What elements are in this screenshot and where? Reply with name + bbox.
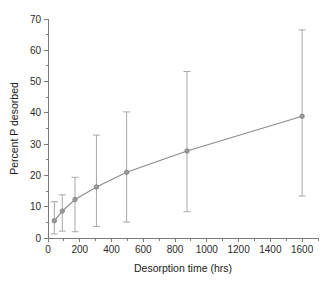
x-tick-label: 1600 [291, 244, 314, 255]
x-tick-label: 200 [71, 244, 88, 255]
y-axis-title: Percent P desorbed [8, 82, 20, 175]
tick-labels: 0200400600800100012001400160001020304050… [30, 14, 314, 256]
y-tick-label: 60 [30, 45, 42, 56]
error-bars [51, 30, 306, 234]
axes [44, 19, 318, 242]
x-tick-label: 400 [103, 244, 120, 255]
y-tick-label: 20 [30, 170, 42, 181]
data-point-marker [300, 114, 304, 118]
x-tick-label: 0 [45, 244, 51, 255]
x-tick-label: 600 [135, 244, 152, 255]
y-tick-label: 10 [30, 201, 42, 212]
x-tick-label: 1400 [259, 244, 282, 255]
chart-container: 0200400600800100012001400160001020304050… [0, 0, 329, 284]
line-chart: 0200400600800100012001400160001020304050… [0, 0, 329, 284]
data-markers [52, 114, 304, 223]
x-axis-title: Desorption time (hrs) [134, 262, 232, 274]
data-point-marker [124, 170, 128, 174]
data-point-marker [73, 197, 77, 201]
series-polyline [54, 116, 302, 220]
data-point-marker [185, 149, 189, 153]
x-tick-label: 1000 [196, 244, 219, 255]
data-point-marker [94, 185, 98, 189]
data-point-marker [52, 219, 56, 223]
y-tick-label: 50 [30, 76, 42, 87]
data-point-marker [60, 209, 64, 213]
x-tick-label: 800 [167, 244, 184, 255]
x-tick-label: 1200 [227, 244, 250, 255]
y-tick-label: 70 [30, 14, 42, 25]
data-series [54, 116, 302, 220]
y-tick-label: 0 [35, 233, 41, 244]
y-tick-label: 40 [30, 107, 42, 118]
y-tick-label: 30 [30, 139, 42, 150]
